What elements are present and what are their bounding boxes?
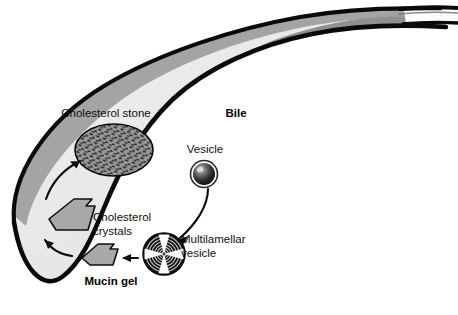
label-cholesterol-stone: Cholesterol stone — [61, 107, 151, 119]
gallbladder-diagram: Cholesterol stone Bile Vesicle Cholester… — [0, 0, 458, 315]
vesicle-sphere — [191, 161, 218, 188]
figure-root: Cholesterol stone Bile Vesicle Cholester… — [0, 0, 458, 315]
cholesterol-stone-shape — [75, 124, 153, 176]
label-vesicle: Vesicle — [187, 143, 223, 155]
label-multilamellar-line2: vesicle — [181, 247, 216, 259]
arrow-mlv-to-crystal — [122, 254, 138, 262]
label-bile: Bile — [225, 107, 246, 119]
label-multilamellar-line1: Multilamellar — [181, 233, 246, 245]
label-cholesterol-crystals-line2: crystals — [93, 225, 132, 237]
label-mucin-gel: Mucin gel — [84, 275, 137, 287]
multilamellar-vesicle-shape — [143, 233, 185, 275]
label-cholesterol-crystals-line1: Cholesterol — [93, 211, 151, 223]
